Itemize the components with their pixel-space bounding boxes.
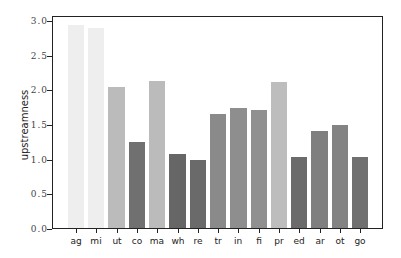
x-tick [76, 229, 77, 233]
bar-ot [332, 125, 348, 228]
x-tick [218, 229, 219, 233]
y-tick-label: 1.5 [31, 120, 48, 130]
x-tick [299, 229, 300, 233]
y-axis-label: upstreamness [19, 90, 30, 161]
bar-wh [169, 154, 185, 228]
bar-ag [68, 25, 84, 228]
y-tick-label: 1.0 [31, 155, 48, 165]
y-tick-label: 0.5 [31, 189, 48, 199]
bar-ut [108, 87, 124, 228]
x-tick [259, 229, 260, 233]
bar-in [230, 108, 246, 228]
x-tick [279, 229, 280, 233]
y-tick-label: 3.0 [31, 16, 48, 26]
bar-tr [210, 114, 226, 228]
bar-go [352, 157, 368, 228]
x-tick [198, 229, 199, 233]
bar-chart: upstreamness 0.00.51.01.52.02.53.0agmiut… [0, 0, 401, 258]
x-tick [340, 229, 341, 233]
bar-fi [251, 110, 267, 228]
x-tick [320, 229, 321, 233]
y-tick-label: 2.0 [31, 85, 48, 95]
y-tick-label: 2.5 [31, 51, 48, 61]
x-tick [96, 229, 97, 233]
bar-pr [271, 82, 287, 228]
x-tick [117, 229, 118, 233]
x-tick [238, 229, 239, 233]
bar-re [190, 160, 206, 228]
x-tick [360, 229, 361, 233]
bar-mi [88, 28, 104, 228]
x-tick [178, 229, 179, 233]
bar-ma [149, 81, 165, 228]
x-tick [137, 229, 138, 233]
bar-ar [311, 131, 327, 228]
bar-co [129, 142, 145, 228]
plot-area [52, 16, 383, 229]
y-tick-label: 0.0 [31, 224, 48, 234]
x-tick-label: go [345, 236, 375, 246]
bar-ed [291, 157, 307, 228]
x-tick [157, 229, 158, 233]
